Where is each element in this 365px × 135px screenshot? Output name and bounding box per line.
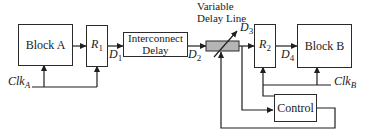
block-a-label: Block A: [26, 39, 66, 51]
block-b-label: Block B: [305, 40, 345, 52]
register-r2-box: R2: [254, 24, 276, 68]
signal-label-d1: D1: [109, 48, 122, 64]
control-label: Control: [277, 102, 314, 114]
signal-label-d2: D2: [188, 48, 201, 64]
wire-clkb-to-control: [263, 85, 274, 96]
signal-label-clk-b: ClkB: [334, 75, 356, 91]
control-box: Control: [274, 94, 317, 122]
register-r1-label: R1: [91, 38, 103, 54]
register-r1-box: R1: [86, 25, 108, 67]
block-a-box: Block A: [18, 24, 73, 66]
interconnect-delay-label: Interconnect Delay: [128, 33, 183, 56]
variable-delay-line-caption: Variable Delay Line: [197, 1, 246, 24]
block-diagram: Block A R1 Interconnect Delay R2 Block B…: [0, 0, 365, 135]
signal-label-d3: D3: [240, 21, 253, 37]
signal-label-d4: D4: [281, 48, 294, 64]
signal-label-clk-a: ClkA: [8, 75, 30, 91]
interconnect-delay-box: Interconnect Delay: [123, 32, 188, 57]
register-r2-label: R2: [259, 38, 271, 54]
block-b-box: Block B: [297, 24, 352, 68]
variable-delay-line-element: [206, 41, 239, 51]
